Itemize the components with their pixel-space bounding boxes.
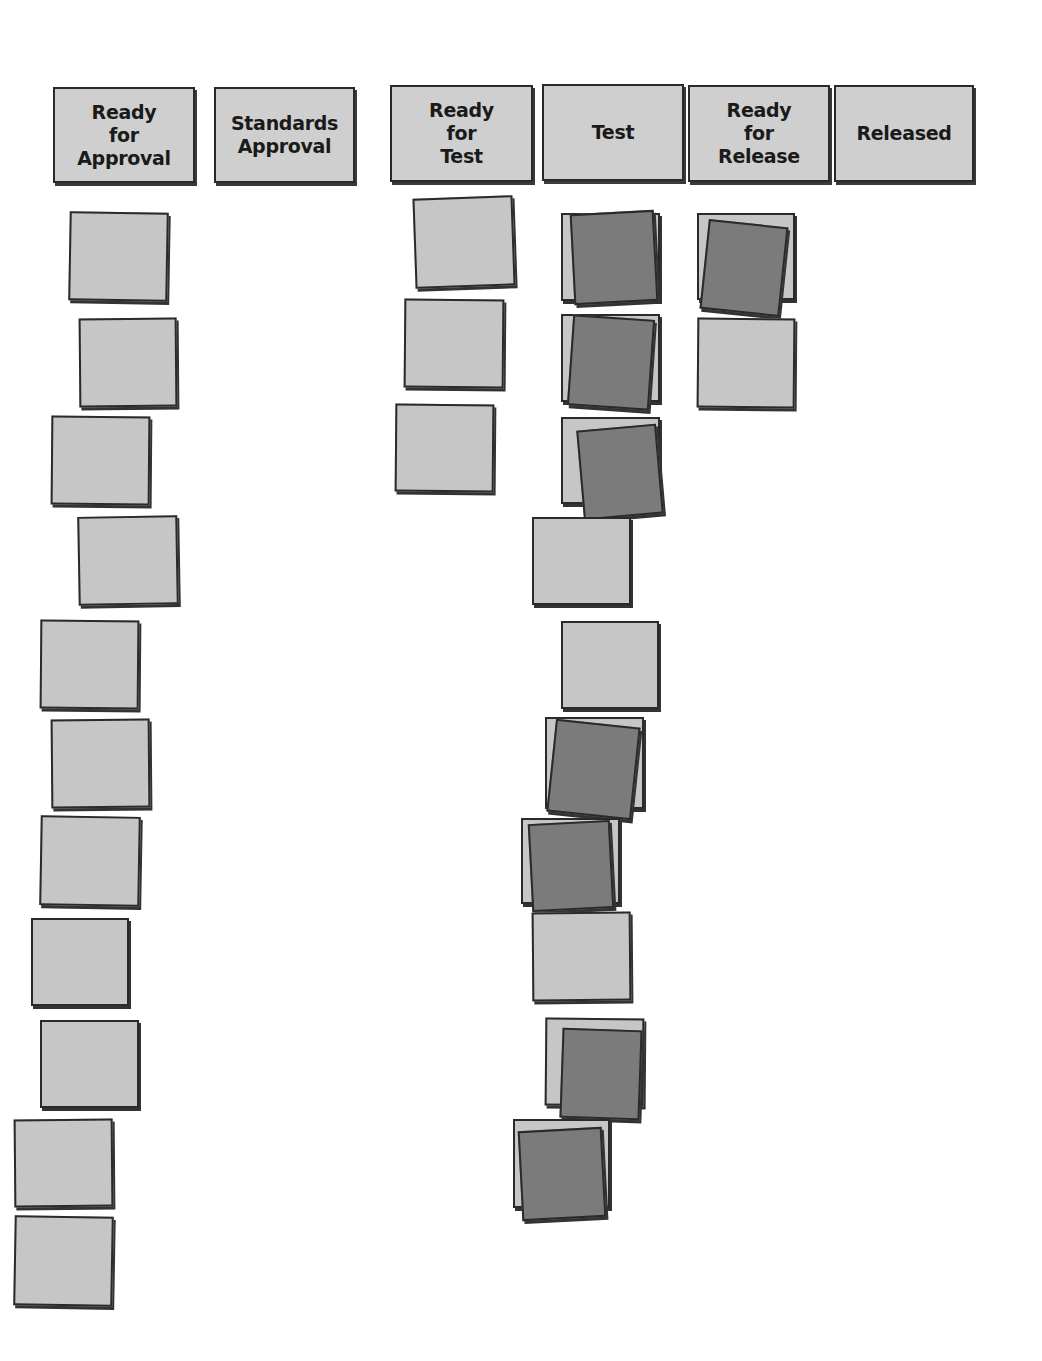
card-ready-for-approval[interactable]	[51, 416, 151, 506]
card-ready-for-approval[interactable]	[79, 318, 178, 408]
blocked-card-test[interactable]	[576, 424, 664, 521]
card-ready-for-approval[interactable]	[40, 620, 140, 710]
card-ready-for-approval[interactable]	[14, 1119, 114, 1208]
column-header-standards-approval: Standards Approval	[214, 87, 355, 183]
column-header-ready-for-approval: Ready for Approval	[53, 87, 195, 183]
column-header-test: Test	[542, 84, 684, 181]
card-ready-for-approval[interactable]	[51, 719, 151, 809]
column-header-ready-for-release: Ready for Release	[688, 85, 830, 182]
card-ready-for-approval[interactable]	[13, 1215, 114, 1307]
blocked-card-test[interactable]	[567, 314, 655, 410]
card-ready-for-approval[interactable]	[40, 1020, 139, 1108]
kanban-board: Ready for ApprovalStandards ApprovalRead…	[0, 0, 1042, 1361]
card-ready-for-test[interactable]	[395, 404, 495, 493]
blocked-card-test[interactable]	[570, 210, 659, 305]
blocked-card-test[interactable]	[546, 719, 640, 820]
column-header-released: Released	[834, 85, 974, 182]
card-test[interactable]	[532, 517, 631, 605]
card-ready-for-approval[interactable]	[39, 815, 141, 907]
card-ready-for-test[interactable]	[404, 299, 505, 389]
card-test[interactable]	[532, 912, 632, 1002]
card-ready-for-approval[interactable]	[77, 515, 179, 606]
blocked-card-test[interactable]	[528, 820, 614, 912]
card-ready-for-release[interactable]	[697, 318, 796, 409]
card-ready-for-approval[interactable]	[68, 211, 169, 302]
column-header-ready-for-test: Ready for Test	[390, 85, 533, 182]
card-ready-for-approval[interactable]	[31, 918, 129, 1006]
card-test[interactable]	[561, 621, 659, 709]
blocked-card-ready-for-release[interactable]	[700, 219, 789, 317]
card-ready-for-test[interactable]	[412, 195, 515, 288]
blocked-card-test[interactable]	[559, 1028, 642, 1121]
blocked-card-test[interactable]	[518, 1127, 607, 1221]
